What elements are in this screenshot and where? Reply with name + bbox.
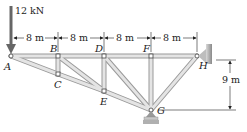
joint-label-h: H [198,60,208,71]
joint-label-b: B [49,43,57,54]
joint-label-c: C [54,79,62,90]
joint-label-d: D [94,43,103,54]
joint-label-a: A [3,61,11,72]
joint-label-e: E [99,96,108,107]
joint-label-g: G [157,105,165,116]
span-label-4: 8 m [163,32,181,43]
joint-e [102,89,106,93]
span-label-1: 8 m [26,32,44,43]
joint-label-f: F [142,43,151,54]
joint-f [149,54,153,58]
joint-b [56,54,60,58]
span-label-3: 8 m [116,32,134,43]
height-label: 9 m [222,74,240,85]
truss-diagram: 12 kN 8 m 8 m 8 m 8 m 9 m A B C D E F G … [0,0,247,132]
span-label-2: 8 m [70,32,88,43]
load-label: 12 kN [15,5,44,16]
joint-d [102,54,106,58]
joint-a [9,54,13,58]
joint-c [56,72,60,76]
